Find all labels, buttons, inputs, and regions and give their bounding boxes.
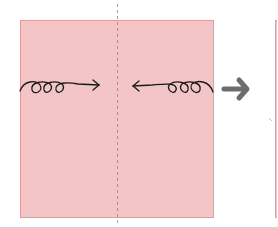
paper-square [21,21,214,218]
next-step-arrow-icon [224,80,247,98]
origami-diagram [0,0,277,227]
next-panel-mark [269,118,272,121]
next-panel-paper [276,21,278,218]
